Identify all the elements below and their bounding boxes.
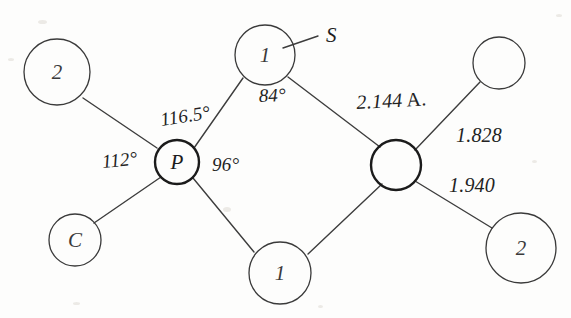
bond-bottom1-to-center bbox=[308, 184, 382, 254]
scan-speck bbox=[556, 14, 562, 17]
distance-1-828-label: 1.828 bbox=[456, 125, 502, 145]
distance-2-144-value: 2.144 bbox=[356, 89, 403, 113]
distance-2-144-label: 2.144 A. bbox=[356, 88, 427, 112]
angle-112-label: 112° bbox=[101, 148, 138, 171]
angle-84-label: 84° bbox=[258, 85, 286, 105]
atom-center-right bbox=[371, 140, 421, 190]
angle-96-label: 96° bbox=[212, 155, 239, 174]
bonds-group bbox=[83, 36, 492, 254]
scan-speck bbox=[38, 20, 47, 24]
distance-1-940-value: 1.940 bbox=[449, 174, 495, 196]
distance-2-144-unit: A. bbox=[402, 87, 427, 110]
atom-top-right bbox=[473, 37, 525, 89]
bond-c-to-p bbox=[94, 177, 161, 223]
bond-leader-sulfur bbox=[283, 36, 318, 48]
scan-speck bbox=[532, 160, 537, 163]
atom-bottom-bridge-label: 1 bbox=[275, 263, 286, 284]
scan-speck bbox=[8, 58, 14, 61]
bond-layer bbox=[0, 0, 571, 318]
bond-p-to-bottom1 bbox=[193, 178, 254, 252]
scan-speck bbox=[223, 207, 231, 212]
atom-top-left-label: 2 bbox=[52, 62, 63, 83]
scan-speck bbox=[318, 305, 323, 308]
distance-1-828-value: 1.828 bbox=[456, 124, 502, 146]
bond-2-to-p bbox=[83, 98, 157, 148]
atom-bottom-right-label: 2 bbox=[516, 238, 527, 259]
element-sulfur-label: S bbox=[326, 25, 337, 46]
atom-top-bridge-label: 1 bbox=[260, 45, 271, 66]
distance-1-940-label: 1.940 bbox=[449, 175, 495, 195]
atom-bottom-left-label: C bbox=[68, 230, 82, 251]
scan-speck bbox=[73, 302, 80, 305]
molecular-structure-figure: 2CP112 116.5°112°96°84°2.144 A.1.8281.94… bbox=[0, 0, 571, 318]
atom-phosphorus-label: P bbox=[171, 152, 184, 173]
